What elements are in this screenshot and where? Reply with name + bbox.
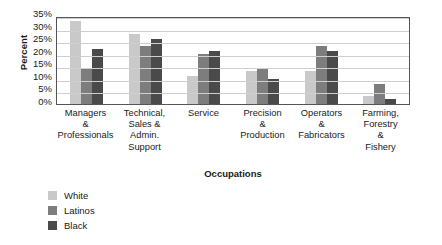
x-tick-label: Service <box>174 108 233 153</box>
bar <box>209 51 220 104</box>
bar-chart: Percent 35%30%25%20%15%10%5%0% Managers&… <box>0 0 442 245</box>
legend-item: Black <box>48 218 95 233</box>
y-tick-label: 5% <box>38 84 52 94</box>
y-tick-label: 0% <box>38 97 52 107</box>
x-tick-label: Technical,Sales &Admin.Support <box>115 108 174 153</box>
bar <box>246 71 257 104</box>
gridline <box>57 31 409 32</box>
gridline <box>57 56 409 57</box>
y-tick-label: 35% <box>33 9 52 19</box>
legend-swatch-icon <box>48 206 57 215</box>
legend-swatch-icon <box>48 221 57 230</box>
legend-label: White <box>64 191 88 201</box>
y-tick-label: 20% <box>33 47 52 57</box>
bar <box>385 99 396 104</box>
bar <box>363 96 374 104</box>
gridline <box>57 43 409 44</box>
bar <box>305 71 316 104</box>
legend-label: Black <box>64 221 87 231</box>
bar <box>81 69 92 104</box>
y-tick-label: 15% <box>33 59 52 69</box>
bar <box>70 21 81 104</box>
x-tick-label: Precision&Production <box>233 108 292 153</box>
legend-item: White <box>48 188 95 203</box>
plot-area <box>56 17 410 105</box>
bar <box>198 54 209 104</box>
gridline <box>57 81 409 82</box>
y-tick-label: 10% <box>33 72 52 82</box>
x-axis-category-labels: Managers&ProfessionalsTechnical,Sales &A… <box>56 108 410 153</box>
x-tick-label: Farming,Forestry&Fishery <box>351 108 410 153</box>
bar <box>268 79 279 104</box>
gridline <box>57 68 409 69</box>
gridline <box>57 93 409 94</box>
legend-label: Latinos <box>64 206 95 216</box>
bar <box>257 69 268 104</box>
bar <box>92 49 103 104</box>
y-tick-label: 30% <box>33 22 52 32</box>
legend-swatch-icon <box>48 191 57 200</box>
bar <box>327 51 338 104</box>
y-axis-tick-labels: 35%30%25%20%15%10%5%0% <box>16 13 52 105</box>
legend: WhiteLatinosBlack <box>48 188 95 233</box>
x-tick-label: Operators&Fabricators <box>292 108 351 153</box>
gridline <box>57 18 409 19</box>
legend-item: Latinos <box>48 203 95 218</box>
x-axis-title: Occupations <box>56 168 410 179</box>
x-tick-label: Managers&Professionals <box>56 108 115 153</box>
y-tick-label: 25% <box>33 34 52 44</box>
